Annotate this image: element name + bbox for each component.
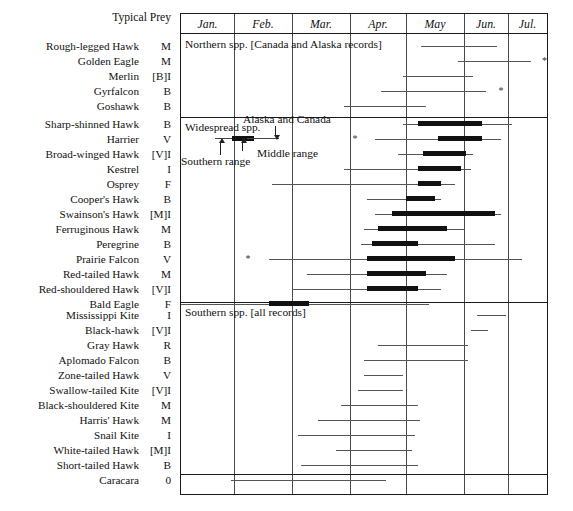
bar-row bbox=[181, 324, 547, 336]
species-label: Mississippi Kite bbox=[66, 310, 139, 321]
prey-code: B bbox=[164, 119, 171, 130]
month-header-jun: Jun. bbox=[464, 15, 508, 33]
peak-bar bbox=[367, 286, 418, 291]
range-line bbox=[344, 106, 426, 107]
bar-row bbox=[181, 268, 547, 280]
species-label: Zone-tailed Hawk bbox=[58, 370, 139, 381]
bar-row bbox=[181, 369, 547, 381]
species-label: Short-tailed Hawk bbox=[57, 460, 139, 471]
species-label: Goshawk bbox=[97, 101, 139, 112]
species-label: Rough-legged Hawk bbox=[46, 41, 139, 52]
prey-code: [V]I bbox=[152, 385, 171, 396]
range-line bbox=[336, 450, 412, 451]
month-header-apr: Apr. bbox=[350, 15, 406, 33]
bar-row bbox=[181, 283, 547, 295]
bar-row: * bbox=[181, 55, 547, 67]
bar-row bbox=[181, 118, 547, 130]
month-header-jan: Jan. bbox=[181, 15, 234, 33]
bar-row bbox=[181, 208, 547, 220]
bar-row bbox=[181, 474, 547, 486]
species-label: Snail Kite bbox=[94, 430, 139, 441]
chart-grid: Jan.Feb.Mar.Apr.MayJun.Jul. Northern spp… bbox=[180, 13, 548, 495]
extreme-record-asterisk: * bbox=[498, 85, 503, 97]
prey-code: F bbox=[165, 179, 171, 190]
typical-prey-header: Typical Prey bbox=[0, 11, 171, 24]
species-label: Golden Eagle bbox=[78, 56, 139, 67]
prey-code-column: MM[B]IBBBV[V]IIFB[M]IMBVM[V]IFI[V]IRBV[V… bbox=[139, 0, 174, 511]
prey-code: M bbox=[161, 269, 171, 280]
peak-bar bbox=[406, 196, 435, 201]
peak-bar bbox=[418, 121, 482, 126]
prey-code: M bbox=[161, 415, 171, 426]
prey-code: V bbox=[163, 254, 171, 265]
bar-row bbox=[181, 399, 547, 411]
range-line bbox=[471, 330, 489, 331]
species-name-column: Rough-legged HawkGolden EagleMerlinGyrfa… bbox=[0, 0, 139, 511]
species-label: Gyrfalcon bbox=[94, 86, 139, 97]
bar-row bbox=[181, 339, 547, 351]
peak-bar bbox=[378, 226, 447, 231]
prey-code: M bbox=[161, 400, 171, 411]
species-label: Black-shouldered Kite bbox=[38, 400, 139, 411]
prey-code: 0 bbox=[165, 475, 171, 486]
peak-bar bbox=[372, 241, 417, 246]
species-label: Cooper's Hawk bbox=[70, 194, 139, 205]
range-line bbox=[364, 360, 468, 361]
prey-code: B bbox=[164, 101, 171, 112]
bar-row bbox=[181, 178, 547, 190]
range-line bbox=[231, 480, 386, 481]
month-header-may: May bbox=[406, 15, 464, 33]
prey-code: B bbox=[164, 239, 171, 250]
month-header-mar: Mar. bbox=[292, 15, 350, 33]
species-label: Osprey bbox=[107, 179, 139, 190]
species-label: Broad-winged Hawk bbox=[45, 149, 139, 160]
range-line bbox=[341, 405, 417, 406]
peak-bar bbox=[423, 151, 466, 156]
bar-row bbox=[181, 100, 547, 112]
peak-bar bbox=[367, 256, 456, 261]
range-line bbox=[403, 76, 473, 77]
prey-code: [V]I bbox=[152, 284, 171, 295]
bar-row bbox=[181, 163, 547, 175]
peak-bar bbox=[438, 136, 482, 141]
bar-row: * bbox=[181, 85, 547, 97]
bar-row bbox=[181, 193, 547, 205]
prey-code: [B]I bbox=[152, 71, 171, 82]
bar-row bbox=[181, 238, 547, 250]
bar-row bbox=[181, 384, 547, 396]
bar-row: * bbox=[181, 133, 547, 145]
species-label: Sharp-shinned Hawk bbox=[45, 119, 139, 130]
month-header-feb: Feb. bbox=[234, 15, 292, 33]
species-label: Kestrel bbox=[107, 164, 139, 175]
range-line bbox=[458, 61, 531, 62]
prey-code: B bbox=[164, 355, 171, 366]
bar-row bbox=[181, 459, 547, 471]
species-label: Gray Hawk bbox=[87, 340, 139, 351]
range-line bbox=[477, 315, 506, 316]
prey-code: [V]I bbox=[152, 325, 171, 336]
grid-hline-0 bbox=[181, 33, 547, 34]
species-label: White-tailed Hawk bbox=[54, 445, 139, 456]
bar-row bbox=[181, 70, 547, 82]
extreme-record-asterisk: * bbox=[353, 133, 358, 145]
peak-bar bbox=[269, 301, 310, 306]
species-label: Swainson's Hawk bbox=[60, 209, 139, 220]
prey-code: [M]I bbox=[150, 209, 171, 220]
range-line bbox=[381, 91, 486, 92]
species-label: Ferruginous Hawk bbox=[55, 224, 139, 235]
bar-row bbox=[181, 354, 547, 366]
species-label: Red-tailed Hawk bbox=[63, 269, 139, 280]
bar-row bbox=[181, 414, 547, 426]
prey-code: M bbox=[161, 41, 171, 52]
prey-code: I bbox=[167, 164, 171, 175]
peak-bar bbox=[418, 181, 441, 186]
prey-code: I bbox=[167, 430, 171, 441]
range-line bbox=[364, 375, 403, 376]
species-label: Harris' Hawk bbox=[80, 415, 140, 426]
bar-row: * bbox=[181, 253, 547, 265]
prey-code: B bbox=[164, 86, 171, 97]
bar-row bbox=[181, 444, 547, 456]
range-line bbox=[358, 390, 403, 391]
species-label: Black-hawk bbox=[85, 325, 139, 336]
range-line bbox=[421, 46, 498, 47]
